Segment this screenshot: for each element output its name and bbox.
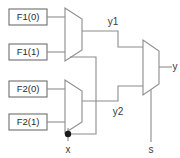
net-label-s: s: [149, 144, 154, 155]
input-box-f2-1-label: F2(1): [17, 116, 40, 127]
input-box-f2-1: F2(1): [9, 114, 47, 130]
circuit-diagram: F1(0) F1(1) F2(0) F2(1): [0, 0, 180, 158]
input-box-f1-0-label: F1(0): [17, 11, 40, 22]
mux1-body: [65, 8, 82, 61]
input-box-f1-0: F1(0): [9, 9, 47, 25]
net-label-x: x: [66, 144, 71, 155]
input-box-f2-0-label: F2(0): [17, 83, 40, 94]
net-label-y: y: [173, 61, 178, 72]
input-box-f1-1: F1(1): [9, 44, 47, 60]
mux2-body: [65, 80, 82, 133]
wire-y1: [82, 31, 143, 47]
net-label-y2: y2: [113, 106, 124, 117]
net-label-y1: y1: [108, 16, 119, 27]
mux3-body: [143, 40, 159, 95]
wire-y2: [82, 86, 143, 101]
input-box-f1-1-label: F1(1): [17, 46, 40, 57]
input-box-f2-0: F2(0): [9, 81, 47, 97]
junction-dot-x: [65, 131, 71, 137]
